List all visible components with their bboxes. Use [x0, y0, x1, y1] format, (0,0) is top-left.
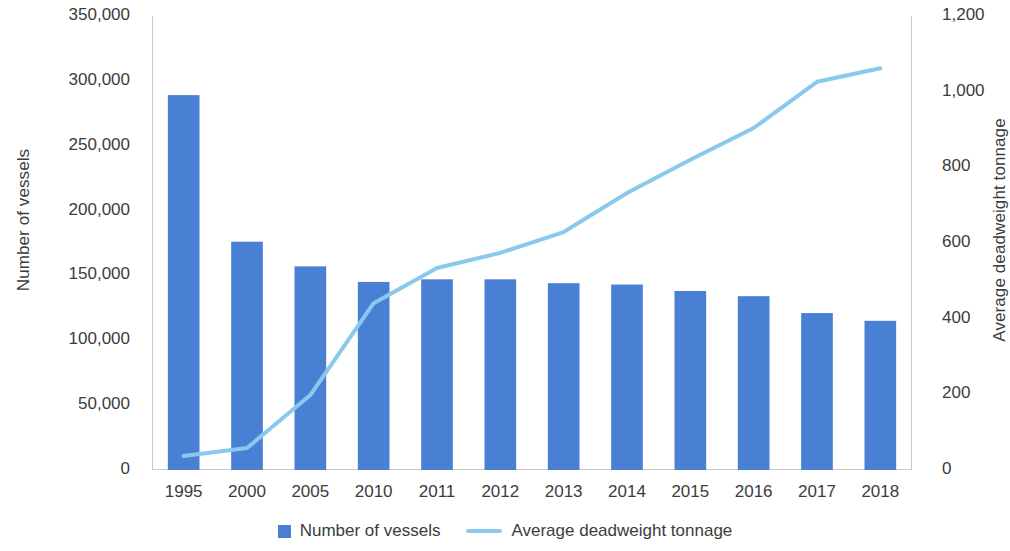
- y-axis-left-tick-50000: 50,000: [20, 394, 130, 414]
- legend-label: Average deadweight tonnage: [511, 521, 732, 541]
- legend-square-swatch-icon: [278, 525, 291, 538]
- legend-item-number-of-vessels[interactable]: Number of vessels: [278, 521, 441, 541]
- legend-item-average-deadweight-tonnage[interactable]: Average deadweight tonnage: [466, 521, 732, 541]
- bar-2013[interactable]: [548, 283, 580, 470]
- y-axis-right-tick-800: 800: [942, 156, 1010, 176]
- bar-2017[interactable]: [801, 313, 833, 470]
- x-axis-tick-2018: 2018: [845, 482, 915, 502]
- y-axis-right-tick-1200: 1,200: [942, 5, 1010, 25]
- x-axis-tick-1995: 1995: [149, 482, 219, 502]
- x-axis-tick-2011: 2011: [402, 482, 472, 502]
- x-axis-tick-2014: 2014: [592, 482, 662, 502]
- y-axis-right-tick-600: 600: [942, 232, 1010, 252]
- x-axis-tick-2016: 2016: [719, 482, 789, 502]
- bar-2012[interactable]: [485, 279, 517, 470]
- bar-2005[interactable]: [295, 266, 327, 470]
- legend-label: Number of vessels: [300, 521, 441, 541]
- bar-2018[interactable]: [865, 321, 897, 470]
- x-axis-tick-2000: 2000: [212, 482, 282, 502]
- x-axis-tick-2005: 2005: [275, 482, 345, 502]
- dual-axis-chart: Number of vessels Average deadweight ton…: [0, 0, 1010, 551]
- x-axis-tick-2013: 2013: [529, 482, 599, 502]
- bar-2010[interactable]: [358, 282, 390, 470]
- plot-area: [152, 16, 912, 470]
- bar-2011[interactable]: [421, 279, 453, 470]
- y-axis-left-tick-200000: 200,000: [20, 200, 130, 220]
- y-axis-left-tick-150000: 150,000: [20, 264, 130, 284]
- bar-1995[interactable]: [168, 95, 200, 470]
- chart-legend: Number of vesselsAverage deadweight tonn…: [0, 521, 1010, 541]
- y-axis-right-tick-200: 200: [942, 383, 1010, 403]
- y-axis-left-tick-350000: 350,000: [20, 5, 130, 25]
- bar-2014[interactable]: [611, 285, 643, 470]
- y-axis-left-tick-0: 0: [20, 459, 130, 479]
- y-axis-right-tick-1000: 1,000: [942, 81, 1010, 101]
- x-axis-tick-2017: 2017: [782, 482, 852, 502]
- y-axis-right-tick-0: 0: [942, 459, 1010, 479]
- bar-2000[interactable]: [231, 242, 263, 470]
- y-axis-left-tick-250000: 250,000: [20, 135, 130, 155]
- bar-2016[interactable]: [738, 296, 770, 470]
- y-axis-left-tick-100000: 100,000: [20, 329, 130, 349]
- y-axis-left-tick-300000: 300,000: [20, 70, 130, 90]
- legend-line-swatch-icon: [466, 529, 502, 533]
- y-axis-right-tick-400: 400: [942, 308, 1010, 328]
- plot-svg: [152, 16, 912, 470]
- x-axis-tick-2010: 2010: [339, 482, 409, 502]
- x-axis-tick-2012: 2012: [465, 482, 535, 502]
- bar-2015[interactable]: [675, 291, 707, 470]
- x-axis-tick-2015: 2015: [655, 482, 725, 502]
- line-series-average-deadweight-tonnage[interactable]: [184, 68, 881, 456]
